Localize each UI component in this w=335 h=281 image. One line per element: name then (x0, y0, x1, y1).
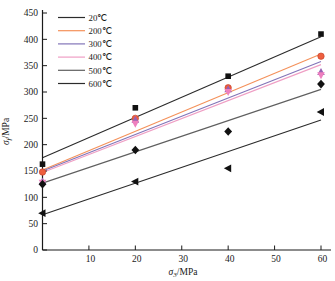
triaxial-strength-vs-confining-pressure-chart: 050100150200250300350400450102030405060σ… (0, 0, 335, 281)
series-20℃ (40, 31, 324, 167)
legend-item-20℃: 20℃ (58, 13, 107, 23)
y-tick-label: 350 (24, 61, 39, 71)
fit-lines (43, 37, 322, 215)
y-tick-label: 200 (24, 140, 39, 150)
y-tick-label: 400 (24, 35, 39, 45)
y-tick-label: 50 (29, 219, 39, 229)
legend-item-600℃: 600℃ (58, 79, 112, 89)
legend-item-300℃: 300℃ (58, 39, 112, 49)
axes: 050100150200250300350400450102030405060 (24, 8, 331, 263)
legend-label: 600℃ (89, 79, 112, 89)
fit-line-200℃ (43, 54, 322, 170)
legend-item-500℃: 500℃ (58, 66, 112, 76)
legend-item-200℃: 200℃ (58, 26, 112, 36)
y-axis-title: σf/MPa (1, 117, 13, 145)
x-tick-label: 60 (318, 254, 328, 264)
x-tick-label: 30 (179, 254, 189, 264)
legend-label: 20℃ (89, 13, 108, 23)
series-600℃ (38, 108, 324, 217)
y-tick-label: 150 (24, 166, 39, 176)
fit-line-400℃ (43, 65, 322, 173)
y-tick-label: 100 (24, 193, 39, 203)
y-tick-label: 0 (33, 245, 38, 255)
legend-item-400℃: 400℃ (58, 52, 112, 62)
legend-label: 500℃ (89, 66, 112, 76)
x-tick-label: 50 (271, 254, 281, 264)
x-tick-label: 20 (132, 254, 142, 264)
series-500℃ (39, 80, 325, 189)
fit-line-600℃ (43, 120, 322, 215)
x-tick-label: 10 (86, 254, 96, 264)
x-tick-label: 40 (225, 254, 235, 264)
fit-line-20℃ (43, 37, 322, 158)
legend-label: 200℃ (89, 26, 112, 36)
legend-label: 300℃ (89, 39, 112, 49)
legend: 20℃200℃300℃400℃500℃600℃ (58, 13, 112, 89)
legend-label: 400℃ (89, 52, 112, 62)
y-tick-label: 450 (24, 8, 39, 18)
chart-canvas: 050100150200250300350400450102030405060σ… (0, 0, 335, 281)
y-tick-label: 250 (24, 114, 39, 124)
fit-line-500℃ (43, 89, 322, 183)
fit-line-300℃ (43, 61, 322, 171)
y-tick-label: 300 (24, 87, 39, 97)
x-axis-title: σ3/MPa (169, 267, 199, 279)
